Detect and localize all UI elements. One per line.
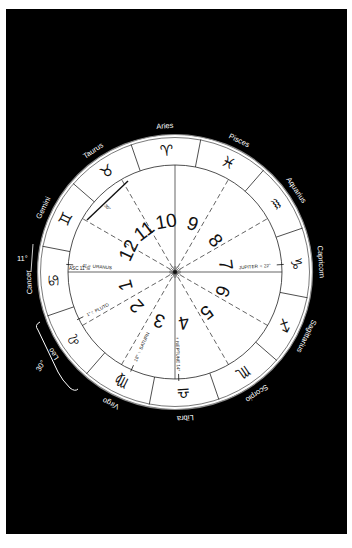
leo-bracket-label: 30° [34,359,47,373]
center-point [173,270,177,274]
astrology-chart-wheel: ♈︎Aries♉︎Taurus♊︎Gemini♋︎Cancer♌︎Leo♍︎Vi… [0,0,352,548]
sign-label-virgo: Virgo [101,396,121,412]
sign-label-capricorn: Capricorn [316,245,327,278]
sign-label-cancer: Cancer [23,269,34,294]
sign-glyph-capricorn: ♑︎ [287,256,306,271]
cancer-degree-marker [31,244,33,272]
sign-glyph-libra: ♎︎ [176,384,191,403]
sign-glyph-aries: ♈︎ [159,141,174,160]
sign-glyph-cancer: ♋︎ [44,273,63,288]
sign-label-libra: Libra [176,413,194,423]
sign-label-leo: Leo [46,346,60,361]
house-number-10: 10 [154,209,178,233]
cancer-degree-label: 11° [17,254,28,263]
sign-label-aries: Aries [156,121,174,131]
